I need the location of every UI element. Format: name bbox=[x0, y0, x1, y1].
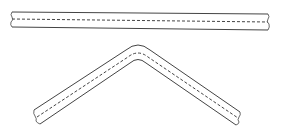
straight-bar-bottom-edge bbox=[12, 27, 268, 30]
straight-bar bbox=[11, 12, 270, 30]
straight-bar-top-edge bbox=[12, 12, 268, 14]
bent-bar-outer-edge bbox=[34, 45, 240, 112]
bent-bar-right-break bbox=[236, 112, 240, 125]
bent-bar-inner-edge bbox=[40, 60, 236, 126]
straight-bar-neutral-axis bbox=[12, 19, 268, 22]
bent-bar-neutral-axis bbox=[37, 53, 238, 118]
bent-bar bbox=[34, 45, 241, 125]
straight-bar-right-break bbox=[267, 14, 269, 30]
straight-bar-left-break bbox=[11, 12, 13, 27]
diagram-canvas bbox=[0, 0, 286, 135]
bent-bar-left-break bbox=[34, 110, 40, 124]
